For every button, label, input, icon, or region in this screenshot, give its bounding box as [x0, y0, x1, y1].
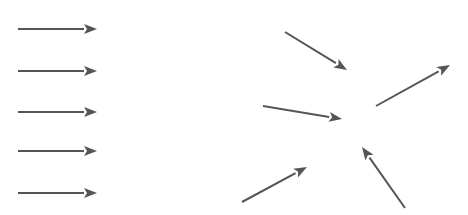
horizontal-arrow-row-2 [18, 66, 97, 76]
arrow-down-right-top [285, 32, 347, 70]
arrow-up-right-far [376, 65, 450, 106]
right-group [242, 32, 450, 208]
right-arrow-5-shaft [369, 158, 405, 208]
arrow-up-right-bottom [242, 167, 307, 202]
right-arrow-1-shaft [285, 32, 336, 63]
horizontal-arrow-row-4 [18, 146, 97, 156]
right-arrow-5-head-icon [362, 147, 374, 161]
right-arrow-2-shaft [263, 106, 329, 117]
left-arrow-4-head-icon [84, 146, 97, 156]
left-arrow-3-head-icon [84, 107, 97, 117]
right-arrow-4-head-icon [293, 167, 307, 178]
arrow-diagram-canvas [0, 0, 468, 215]
left-arrow-2-head-icon [84, 66, 97, 76]
right-arrow-3-shaft [376, 71, 439, 106]
horizontal-arrow-row-5 [18, 188, 97, 198]
right-arrow-1-head-icon [333, 59, 347, 70]
right-arrow-2-head-icon [328, 112, 342, 122]
left-group [18, 24, 97, 198]
right-arrow-4-shaft [242, 173, 296, 202]
arrow-up-left-bottom [362, 147, 405, 208]
left-arrow-1-head-icon [84, 24, 97, 34]
horizontal-arrow-row-3 [18, 107, 97, 117]
figure-root [0, 0, 468, 215]
arrow-right-middle-left [263, 106, 342, 122]
horizontal-arrow-row-1 [18, 24, 97, 34]
left-arrow-5-head-icon [84, 188, 97, 198]
right-arrow-3-head-icon [436, 65, 450, 76]
